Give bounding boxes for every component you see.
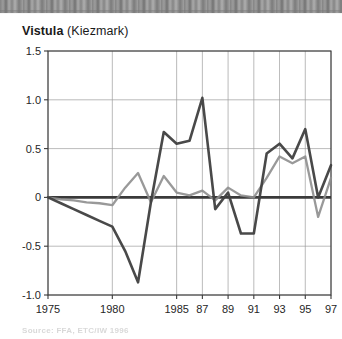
y-tick-label: 0: [35, 191, 41, 203]
x-tick-label: 97: [325, 303, 337, 315]
x-tick-label: 93: [273, 303, 285, 315]
y-tick-label: 1.5: [26, 45, 41, 57]
series-layer: [48, 98, 331, 282]
x-tick-label: 1980: [100, 303, 124, 315]
y-tick-label: -0.5: [22, 240, 41, 252]
x-tick-label: 87: [196, 303, 208, 315]
y-axis-tick-labels: -1.0-0.500.51.01.5: [22, 45, 41, 301]
source-note: Source: FFA, ETC/IW 1996: [22, 326, 129, 337]
line-chart: -1.0-0.500.51.01.5 197519801985878991939…: [0, 0, 342, 339]
y-tick-label: 1.0: [26, 94, 41, 106]
gridlines: [48, 51, 331, 295]
y-tick-label: -1.0: [22, 289, 41, 301]
x-tick-label: 1985: [164, 303, 188, 315]
x-tick-label: 95: [299, 303, 311, 315]
x-tick-label: 89: [222, 303, 234, 315]
chart-plot-area: -1.0-0.500.51.01.5 197519801985878991939…: [0, 0, 342, 339]
axes: [44, 51, 331, 299]
x-tick-label: 1975: [36, 303, 60, 315]
x-tick-label: 91: [248, 303, 260, 315]
y-tick-label: 0.5: [26, 143, 41, 155]
x-axis-tick-labels: 197519801985878991939597: [36, 303, 337, 315]
